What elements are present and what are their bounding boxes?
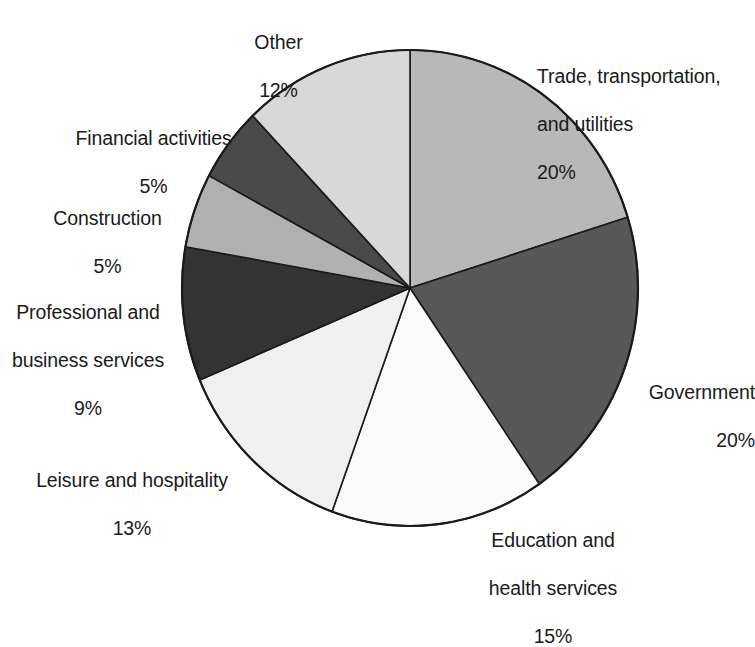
slice-label-education: Education and health services 15%: [455, 504, 651, 647]
slice-label-other-line1: Other: [216, 30, 341, 54]
slice-label-financial-line1: Financial activities: [56, 126, 251, 150]
slice-label-professional-line1: Professional and: [2, 300, 174, 324]
slice-value-professional: 9%: [2, 396, 174, 420]
slice-value-financial: 5%: [56, 174, 251, 198]
slice-label-leisure-line1: Leisure and hospitality: [18, 468, 246, 492]
slice-label-leisure: Leisure and hospitality 13%: [18, 444, 246, 564]
slice-label-government-line1: Government: [600, 380, 755, 404]
slice-label-trade-line1: Trade, transportation,: [537, 64, 755, 88]
slice-label-trade: Trade, transportation, and utilities 20%: [537, 40, 755, 208]
slice-label-other: Other 12%: [216, 6, 341, 126]
slice-value-trade: 20%: [537, 160, 755, 184]
slice-label-education-line2: health services: [455, 576, 651, 600]
slice-label-government: Government 20%: [600, 356, 755, 476]
slice-value-construction: 5%: [26, 254, 189, 278]
slice-label-trade-line2: and utilities: [537, 112, 755, 136]
slice-label-education-line1: Education and: [455, 528, 651, 552]
slice-label-professional-line2: business services: [2, 348, 174, 372]
slice-value-government: 20%: [600, 428, 755, 452]
slice-value-other: 12%: [216, 78, 341, 102]
slice-value-leisure: 13%: [18, 516, 246, 540]
slice-value-education: 15%: [455, 624, 651, 647]
